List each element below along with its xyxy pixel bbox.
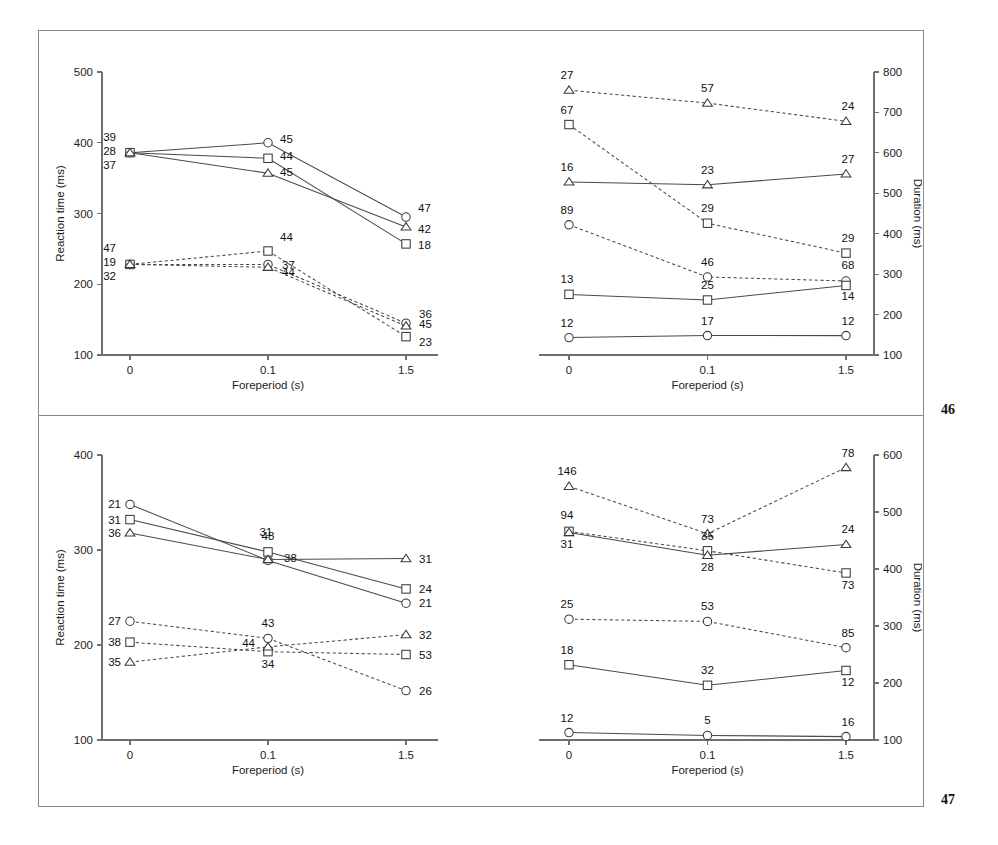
- y-tick-label-a-right-600: 600: [883, 147, 902, 159]
- x-axis-title-b-left: Foreperiod (s): [232, 764, 304, 776]
- y-tick-label-a-left-500: 500: [74, 66, 93, 78]
- data-label-b-left-square-solid-1: 48: [262, 530, 275, 542]
- data-point-a-right-circle-dashed-0: [565, 221, 573, 229]
- y-tick-label-a-left-100: 100: [74, 349, 93, 361]
- data-point-a-right-square-dashed-2: [842, 249, 850, 257]
- x-tick-label-b-right-0: 0: [566, 749, 572, 761]
- data-label-a-left-square-solid-2: 18: [418, 239, 431, 251]
- data-label-a-left-square-dashed-2: 23: [419, 336, 432, 348]
- data-point-a-left-circle-solid-1: [264, 139, 272, 147]
- series-a-left-square-dashed: 194423: [103, 231, 432, 348]
- series-line-a-left-triangle-dashed: [130, 264, 406, 326]
- x-tick-label-a-right-0: 0: [566, 364, 572, 376]
- data-point-b-right-triangle-solid-2: [841, 540, 851, 547]
- data-label-a-left-triangle-dashed-2: 45: [419, 318, 432, 330]
- data-label-a-right-circle-solid-1: 17: [701, 315, 714, 327]
- data-label-a-left-circle-solid-2: 47: [418, 202, 431, 214]
- data-point-a-right-circle-solid-1: [703, 331, 711, 339]
- y-tick-label-b-right-600: 600: [883, 449, 902, 461]
- data-label-b-left-triangle-solid-1: 38: [284, 552, 297, 564]
- series-a-left-square-solid: 284418: [103, 145, 431, 251]
- x-axis-title-a-right: Foreperiod (s): [671, 379, 743, 391]
- data-label-b-right-triangle-solid-1: 28: [701, 561, 714, 573]
- data-label-a-right-square-solid-1: 25: [701, 279, 714, 291]
- data-label-b-right-circle-solid-1: 5: [704, 714, 710, 726]
- series-a-right-circle-solid: 121712: [561, 315, 855, 342]
- y-tick-label-b-left-200: 200: [74, 639, 93, 651]
- data-point-a-left-square-solid-2: [402, 240, 410, 248]
- data-label-a-left-square-solid-0: 28: [103, 145, 116, 157]
- data-point-b-left-circle-solid-2: [402, 599, 410, 607]
- data-label-a-left-circle-solid-1: 45: [280, 133, 293, 145]
- data-label-a-right-triangle-solid-1: 23: [701, 164, 714, 176]
- series-a-left-triangle-dashed: 323745: [103, 259, 432, 330]
- y-axis-title-a-left: Reaction time (ms): [54, 165, 66, 262]
- x-tick-label-a-left-2: 1.5: [398, 364, 414, 376]
- data-point-a-left-circle-solid-2: [402, 213, 410, 221]
- x-tick-label-b-left-2: 1.5: [398, 749, 414, 761]
- chart-b-left: 100200300400Reaction time (ms)00.11.5For…: [54, 449, 438, 776]
- data-point-a-left-square-solid-1: [264, 154, 272, 162]
- x-tick-label-a-right-2: 1.5: [838, 364, 854, 376]
- y-tick-label-b-left-400: 400: [74, 449, 93, 461]
- data-point-b-right-square-dashed-2: [842, 569, 850, 577]
- data-label-b-right-circle-dashed-1: 53: [701, 600, 714, 612]
- data-label-b-left-square-dashed-1: 34: [262, 658, 275, 670]
- data-label-b-left-square-solid-0: 31: [108, 514, 121, 526]
- data-label-a-right-triangle-dashed-0: 27: [561, 69, 574, 81]
- data-point-b-right-square-solid-0: [565, 661, 573, 669]
- data-point-a-right-circle-solid-0: [565, 333, 573, 341]
- data-point-b-right-circle-dashed-0: [565, 615, 573, 623]
- data-point-b-right-triangle-dashed-0: [564, 482, 574, 489]
- series-b-right-triangle-dashed: 1467378: [557, 447, 854, 537]
- data-label-b-right-triangle-solid-0: 31: [561, 538, 574, 550]
- data-label-a-right-square-dashed-1: 29: [701, 202, 714, 214]
- series-line-a-right-square-dashed: [569, 125, 846, 254]
- data-label-b-right-triangle-dashed-2: 78: [842, 447, 855, 459]
- figure-number-46: 46: [941, 402, 955, 418]
- x-tick-label-a-right-1: 0.1: [700, 364, 716, 376]
- y-tick-label-a-right-800: 800: [883, 66, 902, 78]
- data-label-b-left-triangle-solid-2: 31: [419, 553, 432, 565]
- data-point-b-left-circle-solid-0: [126, 500, 134, 508]
- data-label-b-left-circle-solid-0: 21: [108, 498, 121, 510]
- x-tick-label-b-right-2: 1.5: [838, 749, 854, 761]
- data-point-b-left-square-solid-0: [126, 515, 134, 523]
- data-point-b-left-circle-dashed-1: [264, 634, 272, 642]
- data-label-b-left-triangle-solid-0: 36: [108, 527, 121, 539]
- chart-a-right: 100200300400500600700800Duration (ms)00.…: [539, 66, 922, 391]
- y-tick-label-a-right-100: 100: [883, 349, 902, 361]
- data-point-b-left-triangle-dashed-2: [401, 630, 411, 637]
- data-label-a-right-circle-dashed-2: 68: [842, 259, 855, 271]
- data-label-a-left-circle-solid-0: 39: [103, 131, 116, 143]
- data-point-b-right-square-solid-1: [703, 681, 711, 689]
- y-tick-label-a-left-200: 200: [74, 278, 93, 290]
- y-axis-title-b-right: Duration (ms): [912, 563, 922, 633]
- data-point-a-left-square-dashed-1: [264, 247, 272, 255]
- chart-panel-a: 100200300400500Reaction time (ms)00.11.5…: [38, 30, 922, 415]
- data-label-b-right-square-dashed-0: 94: [561, 509, 574, 521]
- data-point-a-right-square-solid-1: [703, 296, 711, 304]
- x-tick-label-b-left-0: 0: [127, 749, 133, 761]
- data-point-a-right-triangle-solid-0: [564, 178, 574, 185]
- data-label-a-right-triangle-dashed-1: 57: [701, 82, 714, 94]
- y-tick-label-b-left-300: 300: [74, 544, 93, 556]
- data-label-a-left-triangle-solid-0: 37: [103, 159, 116, 171]
- data-label-a-left-circle-dashed-0: 47: [103, 242, 116, 254]
- data-label-a-right-circle-solid-2: 12: [842, 315, 855, 327]
- data-point-a-right-triangle-solid-2: [841, 170, 851, 177]
- series-a-right-circle-dashed: 894668: [561, 204, 855, 285]
- figure-number-47: 47: [941, 792, 955, 808]
- data-label-b-left-square-dashed-0: 38: [108, 636, 121, 648]
- data-label-a-left-square-dashed-0: 19: [103, 256, 116, 268]
- data-label-a-right-triangle-dashed-2: 24: [842, 100, 855, 112]
- data-label-b-left-circle-dashed-2: 26: [419, 685, 432, 697]
- data-label-a-left-triangle-dashed-0: 32: [103, 270, 116, 282]
- y-tick-label-b-right-400: 400: [883, 563, 902, 575]
- y-tick-label-a-right-400: 400: [883, 228, 902, 240]
- data-label-a-left-square-dashed-1: 44: [280, 231, 293, 243]
- series-b-right-circle-dashed: 255385: [561, 598, 855, 652]
- data-label-a-left-triangle-solid-2: 42: [418, 223, 431, 235]
- data-label-b-right-square-solid-1: 32: [701, 664, 714, 676]
- data-label-b-right-square-dashed-2: 73: [842, 579, 855, 591]
